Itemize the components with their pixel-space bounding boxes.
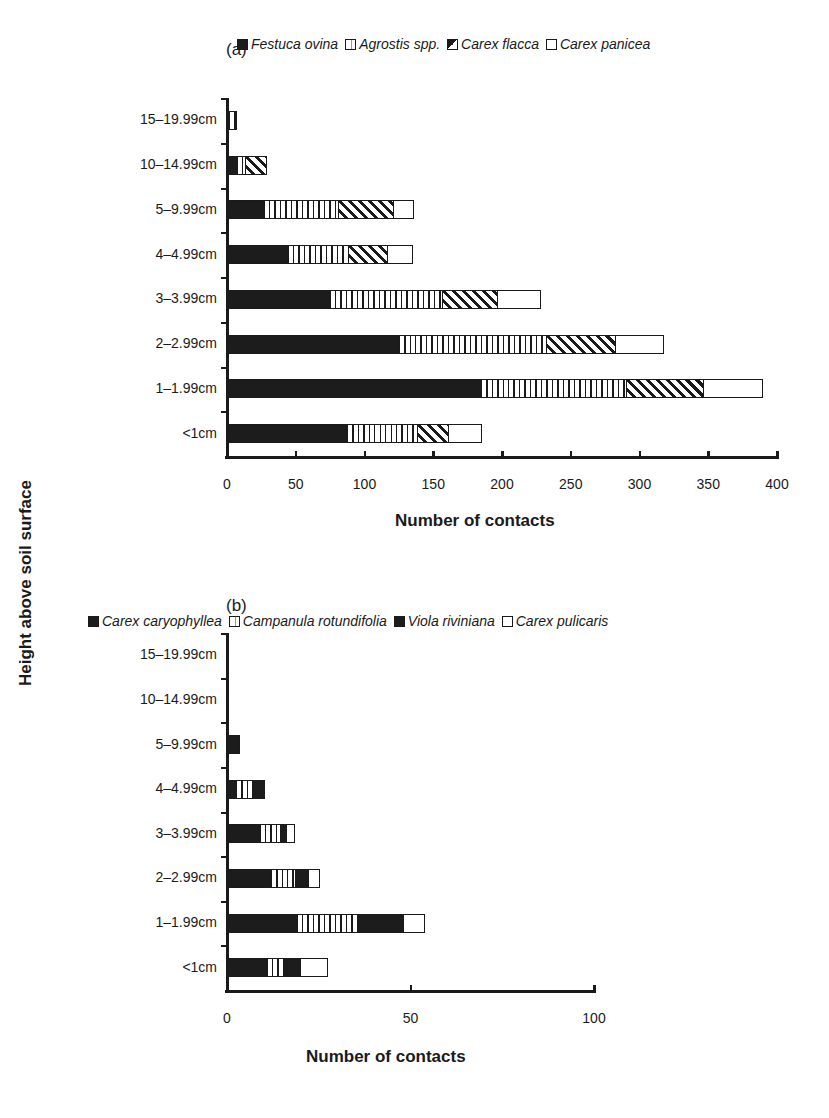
bar-segment-festuca-ovina (227, 200, 266, 219)
bar-segment-carex-flacca (442, 290, 499, 309)
y-axis-tick (221, 767, 227, 769)
legend-swatch (237, 39, 248, 50)
legend-b: Carex caryophylleaCampanula rotundifolia… (88, 613, 615, 629)
stacked-bar (227, 111, 235, 130)
bar-segment-carex-caryophyllea (227, 869, 273, 888)
legend-swatch (345, 39, 356, 50)
stacked-bar (227, 335, 663, 354)
x-tick-label: 100 (345, 476, 385, 492)
stacked-bar (227, 869, 319, 888)
legend-swatch (88, 616, 99, 627)
bar-segment-agrostis-spp- (481, 379, 627, 398)
x-axis-tick (501, 451, 504, 457)
stacked-bar (227, 424, 480, 443)
x-axis-tick (776, 451, 779, 457)
bar-segment-carex-pulicaris (286, 824, 295, 843)
x-tick-label: 50 (276, 476, 316, 492)
x-axis-tick (707, 451, 710, 457)
bar-segment-carex-panicea (703, 379, 764, 398)
y-axis-tick (221, 143, 227, 145)
x-axis-tick (226, 451, 229, 457)
bar-segment-agrostis-spp- (288, 245, 350, 264)
y-axis-tick (221, 678, 227, 680)
legend-label: Carex panicea (560, 36, 650, 52)
legend-label: Carex flacca (461, 36, 539, 52)
bar-segment-carex-pulicaris (300, 958, 327, 977)
y-tick-label: 15–19.99cm (97, 111, 217, 127)
y-tick-label: 3–3.99cm (97, 825, 217, 841)
legend-item: Campanula rotundifolia (229, 613, 387, 629)
legend-item: Carex pulicaris (502, 613, 609, 629)
x-tick-label: 250 (551, 476, 591, 492)
bar-segment-carex-flacca (338, 200, 395, 219)
y-axis-tick (221, 188, 227, 190)
bar-segment-carex-caryophyllea (227, 914, 298, 933)
bar-segment-carex-flacca (417, 424, 450, 443)
y-tick-label: 1–1.99cm (97, 914, 217, 930)
y-axis-tick (221, 322, 227, 324)
bar-segment-carex-panicea (393, 200, 414, 219)
bar-segment-agrostis-spp- (347, 424, 419, 443)
x-axis-tick (295, 451, 298, 457)
legend-swatch (546, 39, 557, 50)
stacked-bar (227, 379, 762, 398)
legend-label: Carex caryophyllea (102, 613, 222, 629)
y-tick-label: 4–4.99cm (97, 780, 217, 796)
bar-segment-festuca-ovina (227, 424, 348, 443)
bar-segment-carex-panicea (615, 335, 665, 354)
stacked-bar (227, 958, 326, 977)
x-axis-label-b: Number of contacts (306, 1047, 466, 1067)
legend-item: Viola riviniana (394, 613, 495, 629)
legend-item: Carex flacca (447, 36, 539, 52)
bar-segment-carex-panicea (387, 245, 413, 264)
x-axis-tick (410, 985, 413, 991)
y-axis-tick (221, 945, 227, 947)
y-axis-tick (221, 633, 227, 635)
y-tick-label: 10–14.99cm (97, 691, 217, 707)
bar-segment-carex-caryophyllea (227, 958, 269, 977)
legend-swatch (394, 616, 405, 627)
x-axis-tick (570, 451, 573, 457)
legend-label: Agrostis spp. (359, 36, 440, 52)
legend-swatch (229, 616, 240, 627)
legend-label: Viola riviniana (408, 613, 495, 629)
x-axis-tick (639, 451, 642, 457)
y-tick-label: 5–9.99cm (97, 201, 217, 217)
bar-segment-agrostis-spp- (229, 111, 237, 130)
stacked-bar (227, 735, 238, 754)
x-axis-tick (432, 451, 435, 457)
bar-segment-campanula-rotundifolia (267, 958, 285, 977)
legend-label: Festuca ovina (251, 36, 338, 52)
stacked-bar (227, 245, 411, 264)
x-tick-label: 50 (391, 1010, 431, 1026)
x-axis-label-a: Number of contacts (395, 511, 555, 531)
y-axis-label: Height above soil surface (16, 480, 36, 686)
y-tick-label: 2–2.99cm (97, 335, 217, 351)
stacked-bar (227, 824, 293, 843)
x-tick-label: 400 (757, 476, 797, 492)
y-axis-tick (221, 901, 227, 903)
bar-segment-viola-riviniana (253, 780, 266, 799)
bar-segment-festuca-ovina (227, 290, 332, 309)
legend-item: Carex panicea (546, 36, 650, 52)
x-axis-tick (226, 985, 229, 991)
bar-segment-agrostis-spp- (264, 200, 340, 219)
y-tick-label: 5–9.99cm (97, 736, 217, 752)
y-tick-label: 10–14.99cm (97, 156, 217, 172)
legend-swatch (447, 39, 458, 50)
bar-segment-campanula-rotundifolia (297, 914, 359, 933)
y-axis-tick (221, 812, 227, 814)
bar-segment-agrostis-spp- (399, 335, 548, 354)
x-tick-label: 0 (207, 1010, 247, 1026)
bar-segment-viola-riviniana (357, 914, 404, 933)
y-tick-label: 3–3.99cm (97, 290, 217, 306)
x-tick-label: 0 (207, 476, 247, 492)
y-axis-tick (221, 411, 227, 413)
y-axis-tick (221, 232, 227, 234)
y-axis-tick (221, 277, 227, 279)
bar-segment-carex-caryophyllea (227, 824, 262, 843)
bar-segment-carex-panicea (448, 424, 481, 443)
bar-segment-campanula-rotundifolia (260, 824, 282, 843)
x-tick-label: 100 (574, 1010, 614, 1026)
y-tick-label: 1–1.99cm (97, 380, 217, 396)
